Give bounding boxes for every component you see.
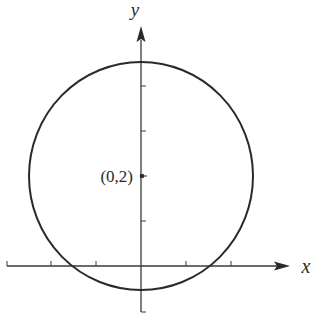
y-axis-label: y	[129, 0, 140, 20]
y-ticks	[141, 86, 146, 221]
circle-diagram: (0,2) y x	[0, 0, 316, 314]
y-axis-arrow-icon	[137, 26, 146, 42]
x-axis-label: x	[301, 255, 311, 277]
center-label: (0,2)	[100, 167, 133, 186]
x-ticks	[7, 261, 231, 266]
